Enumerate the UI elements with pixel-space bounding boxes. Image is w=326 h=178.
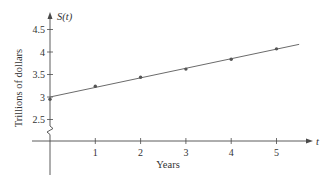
y-tick-label: 4 bbox=[40, 47, 45, 58]
y-tick-label: 3 bbox=[40, 92, 45, 103]
data-point bbox=[230, 58, 233, 61]
x-tick-label: 1 bbox=[93, 147, 98, 158]
y-axis-symbol: S(t) bbox=[57, 11, 73, 23]
chart-container: 2.533.544.512345 Trillions of dollars Ye… bbox=[0, 0, 326, 178]
axes bbox=[32, 12, 313, 175]
chart-svg: 2.533.544.512345 Trillions of dollars Ye… bbox=[0, 0, 326, 178]
x-tick-label: 3 bbox=[183, 147, 188, 158]
x-axis-arrow-icon bbox=[306, 139, 313, 144]
regression-line bbox=[50, 44, 299, 97]
data-point bbox=[139, 76, 142, 79]
data-point bbox=[94, 85, 97, 88]
x-tick-label: 2 bbox=[138, 147, 143, 158]
plot-area bbox=[48, 44, 299, 101]
y-tick-label: 2.5 bbox=[33, 114, 46, 125]
x-axis-title: Years bbox=[156, 159, 179, 170]
x-tick-label: 5 bbox=[274, 147, 279, 158]
y-axis-title: Trillions of dollars bbox=[13, 49, 24, 127]
x-tick-label: 4 bbox=[229, 147, 234, 158]
y-tick-label: 3.5 bbox=[33, 69, 46, 80]
data-point bbox=[184, 67, 187, 70]
data-point bbox=[275, 47, 278, 50]
y-axis-arrow-icon bbox=[48, 12, 53, 19]
data-point bbox=[48, 98, 51, 101]
axis-break-icon bbox=[47, 126, 53, 135]
y-tick-label: 4.5 bbox=[33, 24, 46, 35]
x-axis-symbol: t bbox=[316, 136, 320, 147]
ticks: 2.533.544.512345 bbox=[33, 24, 280, 158]
